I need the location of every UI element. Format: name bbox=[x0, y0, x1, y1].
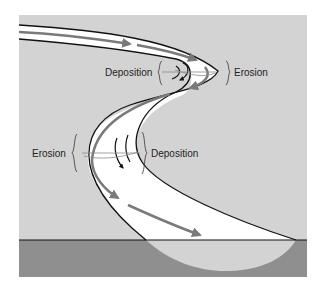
meander-diagram: Deposition Erosion Erosion Deposition bbox=[0, 0, 320, 291]
label-upper-erosion: Erosion bbox=[234, 67, 268, 79]
label-lower-erosion: Erosion bbox=[32, 148, 66, 160]
meander-illustration bbox=[0, 0, 320, 291]
label-lower-deposition: Deposition bbox=[151, 148, 198, 160]
label-upper-deposition: Deposition bbox=[105, 67, 152, 79]
